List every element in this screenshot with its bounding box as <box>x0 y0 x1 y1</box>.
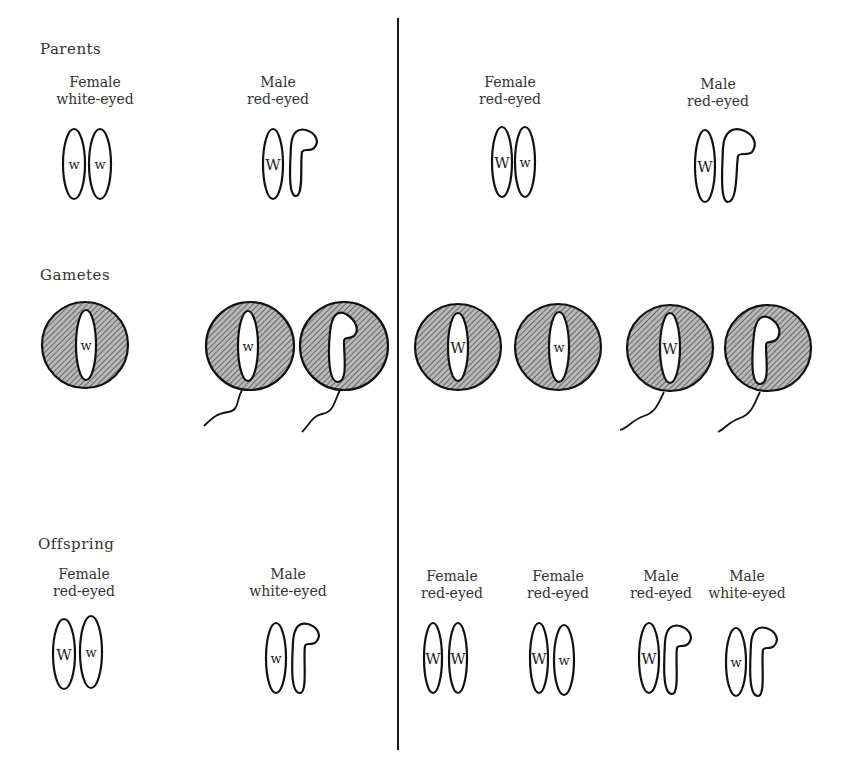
section-title-offspring: Offspring <box>38 535 114 553</box>
right-offspring-3-chromosomes: W <box>636 620 706 700</box>
allele-W: W <box>531 650 547 668</box>
left-parent-female-chromosomes: w w <box>60 126 130 202</box>
phenotype-label: red-eyed <box>624 585 698 602</box>
y-chromosome-icon <box>290 130 317 196</box>
sex-label: Female <box>460 74 560 91</box>
sperm-tail-icon <box>620 392 664 430</box>
y-chromosome-icon <box>722 129 755 202</box>
left-sperm-x-gamete: w <box>200 300 300 435</box>
right-offspring-3-label: Male red-eyed <box>624 568 698 602</box>
right-offspring-4-chromosomes: w <box>724 624 794 704</box>
allele-w: w <box>242 339 253 354</box>
phenotype-label: red-eyed <box>460 91 560 108</box>
sex-label: Male <box>228 74 328 91</box>
right-egg-w-gamete: w <box>513 302 603 392</box>
phenotype-label: red-eyed <box>516 585 600 602</box>
allele-W: W <box>56 646 72 664</box>
right-parent-female-label: Female red-eyed <box>460 74 560 108</box>
left-offspring-female-label: Female red-eyed <box>36 566 132 600</box>
right-egg-W-gamete: W <box>413 302 503 392</box>
allele-w: w <box>80 338 91 353</box>
left-parent-male-chromosomes: W <box>258 126 328 202</box>
phenotype-label: red-eyed <box>410 585 494 602</box>
allele-w: w <box>730 655 741 670</box>
sex-label: Female <box>40 74 150 91</box>
right-offspring-4-label: Male white-eyed <box>706 568 788 602</box>
sex-label: Female <box>36 566 132 583</box>
phenotype-label: red-eyed <box>36 583 132 600</box>
left-offspring-female-chromosomes: W w <box>48 614 108 694</box>
allele-w: w <box>553 340 564 355</box>
left-parent-male-label: Male red-eyed <box>228 74 328 108</box>
sperm-tail-icon <box>204 390 242 426</box>
allele-W: W <box>425 650 441 668</box>
allele-W: W <box>265 156 281 174</box>
allele-w: w <box>270 651 281 666</box>
left-sperm-y-gamete <box>298 300 398 435</box>
left-parent-female-label: Female white-eyed <box>40 74 150 108</box>
phenotype-label: white-eyed <box>40 91 150 108</box>
y-chromosome-icon <box>750 628 777 696</box>
right-offspring-2-chromosomes: W w <box>527 620 587 700</box>
sex-label: Female <box>410 568 494 585</box>
phenotype-label: white-eyed <box>232 583 344 600</box>
phenotype-label: red-eyed <box>228 91 328 108</box>
y-chromosome-icon <box>292 624 319 693</box>
left-offspring-male-label: Male white-eyed <box>232 566 344 600</box>
left-egg-gamete: w <box>40 300 130 390</box>
allele-W: W <box>450 339 466 357</box>
allele-W: W <box>641 650 657 668</box>
sex-label: Male <box>706 568 788 585</box>
right-offspring-1-label: Female red-eyed <box>410 568 494 602</box>
y-chromosome-icon <box>664 626 691 694</box>
right-sperm-x-gamete: W <box>618 304 718 439</box>
right-sperm-y-gamete <box>714 304 814 439</box>
right-parent-male-chromosomes: W <box>692 126 772 206</box>
right-offspring-1-chromosomes: W W <box>420 620 480 700</box>
sperm-tail-icon <box>302 390 340 432</box>
section-title-parents: Parents <box>40 40 101 58</box>
sex-label: Male <box>668 76 768 93</box>
phenotype-label: white-eyed <box>706 585 788 602</box>
allele-w: w <box>558 653 569 668</box>
allele-w: w <box>85 645 96 660</box>
sex-label: Male <box>624 568 698 585</box>
section-title-gametes: Gametes <box>40 266 110 284</box>
allele-w: w <box>519 155 530 170</box>
phenotype-label: red-eyed <box>668 93 768 110</box>
allele-W: W <box>662 340 678 358</box>
allele-W: W <box>697 158 713 176</box>
right-parent-male-label: Male red-eyed <box>668 76 768 110</box>
allele-w: w <box>94 157 105 172</box>
right-offspring-2-label: Female red-eyed <box>516 568 600 602</box>
allele-W: W <box>450 650 466 668</box>
sperm-tail-icon <box>718 392 760 432</box>
sex-label: Female <box>516 568 600 585</box>
allele-W: W <box>494 154 510 172</box>
sex-label: Male <box>232 566 344 583</box>
left-offspring-male-chromosomes: w <box>262 620 332 700</box>
right-parent-female-chromosomes: W w <box>490 124 560 200</box>
allele-w: w <box>68 157 79 172</box>
